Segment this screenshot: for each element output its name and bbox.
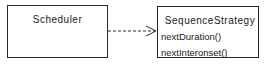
scheduler-class-name: Scheduler [8, 14, 107, 25]
sequence-strategy-class-box: SequenceStrategy nextDuration() nextInte… [157, 6, 259, 58]
open-arrowhead-icon [146, 26, 156, 36]
method-next-interonset: nextInteronset() [161, 47, 228, 58]
sequence-strategy-class-name: SequenceStrategy [158, 15, 258, 26]
method-next-duration: nextDuration() [161, 31, 221, 42]
scheduler-class-box: Scheduler [7, 5, 108, 58]
